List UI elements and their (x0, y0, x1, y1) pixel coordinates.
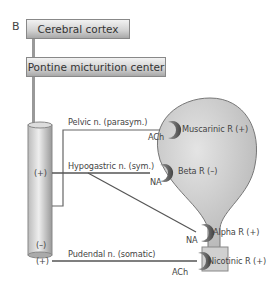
muscarinic-transmitter: ACh (148, 132, 164, 142)
pudendal-spinal-sign: (+) (36, 256, 49, 266)
cerebral-cortex-box: Cerebral cortex (26, 19, 130, 39)
pontine-micturition-center-box: Pontine micturition center (26, 57, 166, 77)
alpha-receptor-label: Alpha R (+) (213, 227, 259, 237)
alpha-transmitter: NA (186, 235, 198, 245)
spinal-cord (28, 122, 52, 258)
beta-transmitter: NA (150, 177, 162, 187)
muscarinic-receptor-label: Muscarinic R (+) (182, 124, 248, 134)
pudendal-nerve-label: Pudendal n. (somatic) (68, 249, 155, 259)
pelvic-spinal-sign: (–) (36, 240, 46, 250)
nicotinic-transmitter: ACh (172, 267, 188, 277)
beta-receptor-label: Beta R (–) (178, 166, 217, 176)
pelvic-nerve-label: Pelvic n. (parasym.) (68, 117, 147, 127)
cortex-tract (32, 38, 35, 58)
panel-label: B (12, 20, 19, 33)
nicotinic-receptor-label: Nicotinic R (+) (208, 256, 266, 266)
hypogastric-spinal-sign: (+) (34, 168, 47, 178)
hypogastric-nerve-label: Hypogastric n. (sym.) (68, 161, 154, 171)
